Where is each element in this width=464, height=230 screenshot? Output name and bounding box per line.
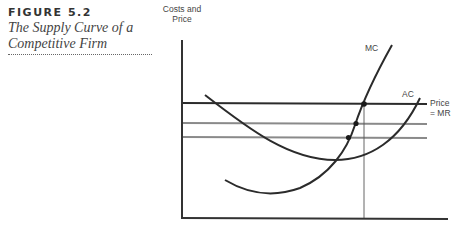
- price-label-line1: Price: [430, 98, 450, 108]
- ac-label: AC: [402, 89, 414, 99]
- intersection-dot-lower-1: [353, 121, 358, 126]
- price-mr-line: [182, 103, 427, 104]
- supply-curve-chart: Costs and Price MC AC Price = MR: [0, 0, 464, 230]
- x-axis: [181, 218, 448, 219]
- mc-curve: [225, 45, 392, 193]
- lower-price-line-1: [182, 123, 427, 124]
- intersection-dot-lower-2: [346, 135, 351, 140]
- price-label-line2: = MR: [430, 108, 451, 118]
- y-axis-label-line2: Price: [172, 14, 192, 24]
- intersection-dot-price-mr: [361, 101, 367, 107]
- mc-label: MC: [365, 43, 378, 53]
- y-axis-label-line1: Costs and: [163, 4, 202, 14]
